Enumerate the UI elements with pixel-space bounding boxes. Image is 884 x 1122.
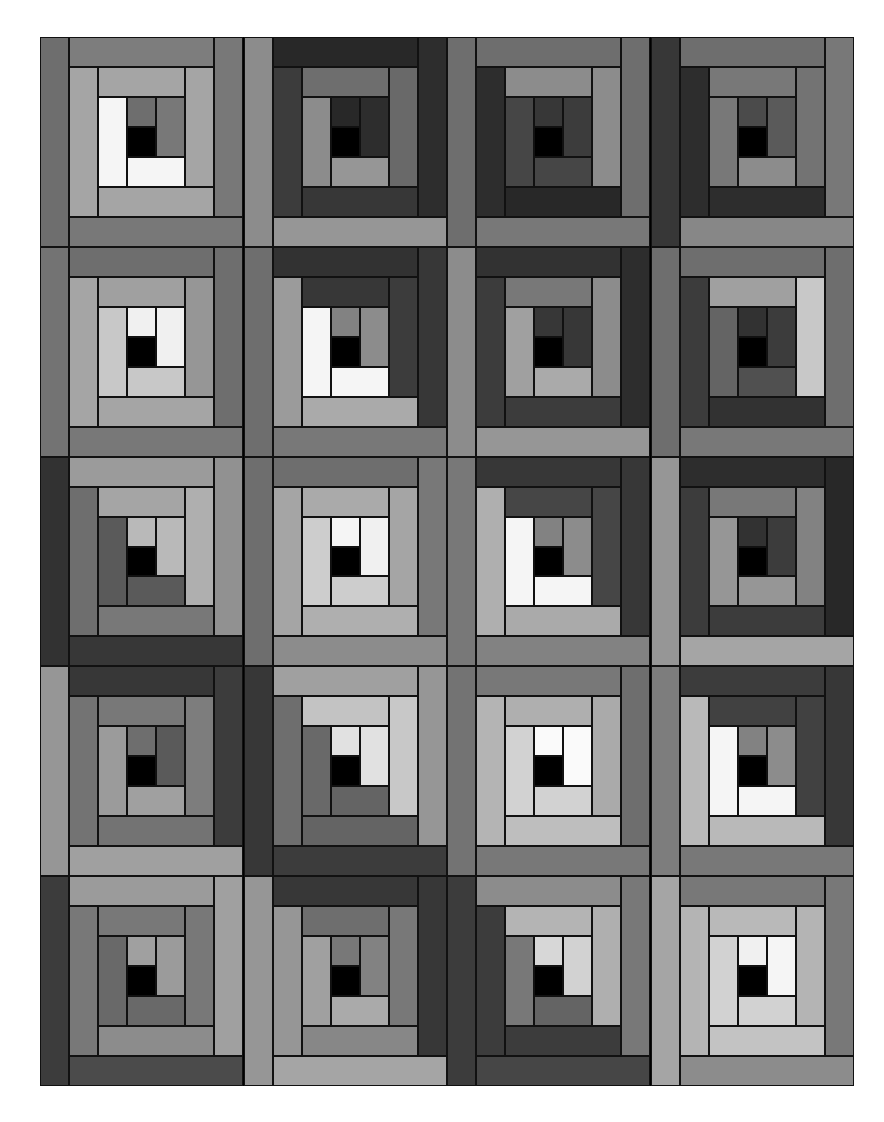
log-right-center — [563, 726, 592, 786]
log-bottom-ring2 — [302, 1026, 418, 1056]
log-right-ring2 — [796, 277, 825, 397]
quilt-block — [447, 247, 651, 457]
log-bottom-ring2 — [505, 1026, 621, 1056]
log-left-ring1 — [302, 936, 331, 1026]
log-right-center — [563, 936, 592, 996]
log-left-ring1 — [505, 307, 534, 397]
log-top-ring2 — [302, 67, 389, 97]
log-bottom-ring1 — [331, 367, 389, 397]
quilt-block — [244, 37, 448, 247]
log-left-ring2 — [273, 906, 302, 1056]
block-center-square — [331, 966, 360, 996]
log-top-ring2 — [709, 906, 796, 936]
log-top-ring3 — [680, 666, 825, 696]
log-bottom-ring2 — [709, 397, 825, 427]
log-top-ring3 — [273, 876, 418, 906]
log-right-ring3 — [825, 247, 854, 427]
quilt-block — [447, 876, 651, 1086]
log-left-ring2 — [476, 67, 505, 217]
log-right-ring3 — [825, 37, 854, 217]
log-left-ring3 — [651, 457, 680, 667]
log-top-center — [534, 307, 563, 337]
log-left-ring1 — [709, 517, 738, 607]
block-center-square — [738, 756, 767, 786]
log-right-ring3 — [418, 666, 447, 846]
log-right-center — [156, 936, 185, 996]
log-right-center — [360, 97, 389, 157]
log-bottom-ring2 — [302, 397, 418, 427]
log-right-ring2 — [796, 67, 825, 187]
log-right-ring3 — [418, 247, 447, 427]
log-bottom-ring2 — [302, 187, 418, 217]
log-left-ring2 — [273, 67, 302, 217]
log-right-ring2 — [796, 696, 825, 816]
log-left-ring2 — [69, 277, 98, 427]
log-top-ring2 — [709, 696, 796, 726]
quilt-block — [651, 247, 855, 457]
log-top-center — [331, 936, 360, 966]
log-left-ring1 — [98, 97, 127, 187]
log-bottom-ring1 — [331, 996, 389, 1026]
log-bottom-ring1 — [738, 157, 796, 187]
log-right-ring2 — [592, 277, 621, 397]
log-left-ring2 — [476, 696, 505, 846]
block-center-square — [127, 127, 156, 157]
log-right-ring3 — [621, 247, 650, 427]
log-left-ring3 — [40, 876, 69, 1086]
block-center-square — [738, 337, 767, 367]
log-top-ring2 — [98, 67, 185, 97]
log-right-center — [156, 97, 185, 157]
log-top-center — [534, 726, 563, 756]
block-center-square — [738, 547, 767, 577]
log-top-ring2 — [302, 277, 389, 307]
log-bottom-ring1 — [534, 576, 592, 606]
log-top-center — [738, 97, 767, 127]
log-right-ring3 — [621, 666, 650, 846]
log-left-ring2 — [680, 67, 709, 217]
log-bottom-ring2 — [98, 816, 214, 846]
block-center-square — [127, 966, 156, 996]
log-left-ring3 — [447, 247, 476, 457]
log-bottom-ring3 — [69, 636, 243, 666]
quilt-block — [651, 37, 855, 247]
log-bottom-ring3 — [69, 217, 243, 247]
log-right-ring2 — [389, 487, 418, 607]
log-bottom-ring3 — [273, 217, 447, 247]
log-bottom-ring1 — [738, 576, 796, 606]
log-left-ring3 — [244, 37, 273, 247]
log-left-ring1 — [98, 517, 127, 607]
log-right-ring3 — [418, 457, 447, 637]
log-bottom-ring3 — [680, 217, 854, 247]
quilt-block — [40, 666, 244, 876]
log-bottom-ring1 — [127, 576, 185, 606]
log-top-center — [738, 517, 767, 547]
log-top-ring3 — [273, 247, 418, 277]
block-center-square — [738, 127, 767, 157]
log-bottom-ring2 — [505, 397, 621, 427]
quilt-block — [40, 37, 244, 247]
log-top-center — [127, 97, 156, 127]
log-bottom-ring1 — [534, 157, 592, 187]
log-left-ring3 — [651, 876, 680, 1086]
log-right-center — [360, 307, 389, 367]
log-bottom-ring3 — [69, 427, 243, 457]
log-bottom-ring1 — [738, 786, 796, 816]
log-right-ring2 — [185, 696, 214, 816]
log-top-center — [534, 517, 563, 547]
log-bottom-ring2 — [709, 1026, 825, 1056]
log-top-ring2 — [98, 906, 185, 936]
block-center-square — [331, 337, 360, 367]
log-right-ring3 — [825, 457, 854, 637]
log-bottom-ring1 — [738, 367, 796, 397]
log-right-center — [563, 517, 592, 577]
quilt-block — [244, 666, 448, 876]
log-top-center — [534, 97, 563, 127]
log-top-center — [127, 726, 156, 756]
quilt-block — [40, 876, 244, 1086]
log-right-center — [360, 936, 389, 996]
log-top-ring3 — [69, 247, 214, 277]
block-center-square — [331, 756, 360, 786]
log-left-ring2 — [476, 487, 505, 637]
log-right-center — [767, 936, 796, 996]
log-right-center — [767, 726, 796, 786]
